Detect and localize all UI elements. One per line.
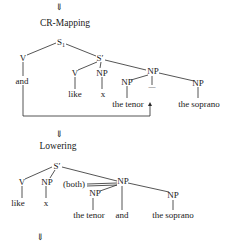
node-v-like: V (72, 68, 79, 78)
node-s-prime: S′ (97, 53, 104, 63)
leaf-the-tenor: the tenor (112, 99, 144, 109)
gap-marker: — (149, 82, 156, 92)
rule-label-cr-mapping: CR-Mapping (40, 18, 90, 28)
leaf-and: and (16, 76, 29, 86)
leaf-and-2: and (116, 210, 129, 220)
leaf-the-soprano: the soprano (178, 99, 220, 109)
leaf-x: x (101, 89, 106, 99)
derivation-arrow-1: ⇓ (55, 2, 63, 12)
leaf-like: like (68, 89, 82, 99)
leaf-the-soprano-2: the soprano (152, 210, 194, 220)
node-s1-subscript: 1 (62, 42, 65, 48)
leaf-like-2: like (11, 198, 25, 208)
derivation-arrow-final: ⇓ (36, 232, 44, 242)
node-np-coordinate: NP (147, 66, 159, 76)
both-marker: (both) (63, 179, 85, 189)
node-np-soprano-2: NP (167, 190, 179, 200)
leaf-x-2: x (44, 198, 49, 208)
node-v-and: V (20, 53, 27, 63)
tree-branches (0, 0, 229, 244)
node-np-soprano: NP (192, 78, 204, 88)
node-s1: S1 (57, 37, 65, 47)
rule-label-lowering: Lowering (40, 141, 77, 151)
node-s-prime-2: S′ (54, 161, 61, 171)
node-np-tenor-2: NP (89, 188, 101, 198)
node-v-like-2: V (19, 177, 26, 187)
node-np-x: NP (96, 68, 108, 78)
derivation-arrow-2: ⇓ (55, 129, 63, 139)
node-np-coordinate-2: NP (117, 176, 129, 186)
leaf-the-tenor-2: the tenor (73, 210, 105, 220)
node-np-x-2: NP (41, 177, 53, 187)
node-np-tenor: NP (121, 77, 133, 87)
